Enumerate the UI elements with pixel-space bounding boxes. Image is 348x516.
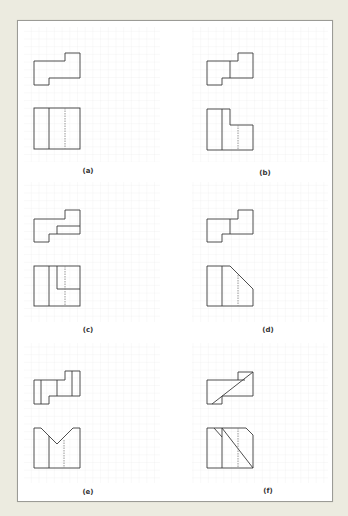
grid-a	[24, 27, 160, 162]
grid-b	[192, 27, 328, 162]
figure-label-a: (a)	[82, 167, 93, 175]
figure-label-d: (d)	[262, 326, 273, 334]
grid-c	[24, 182, 160, 322]
figure-label-e: (e)	[82, 488, 93, 496]
figure-label-b: (b)	[259, 169, 270, 177]
figure-label-f: (f)	[263, 487, 272, 495]
figure-label-c: (c)	[83, 326, 94, 334]
grid-backgrounds	[24, 27, 328, 483]
grid-f	[192, 343, 328, 483]
orthographic-views-sheet	[0, 0, 348, 516]
grid-d	[192, 182, 328, 322]
grid-e	[24, 343, 160, 483]
